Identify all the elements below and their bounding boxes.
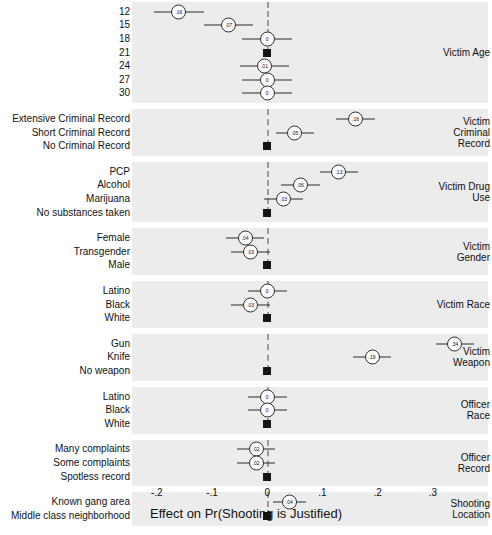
category-label: Gun [111,339,130,349]
estimate-value-bubble: .13 [331,164,346,179]
confidence-interval-right [275,410,287,411]
confidence-interval-left [273,502,282,503]
category-label: Many complaints [55,444,130,454]
reference-category-marker [263,314,271,322]
category-label: 18 [119,34,130,44]
estimate-value-bubble: .05 [287,125,302,140]
estimate-value-bubble: 0 [260,403,275,418]
category-label: Some complaints [53,458,130,468]
confidence-interval-right [462,343,474,344]
confidence-interval-left [276,132,288,133]
category-label: White [104,313,130,323]
reference-category-marker [263,49,271,57]
coefficient-plot: Victim Age12.1615.071802124.01270300Vict… [0,0,492,535]
estimate-marker: 0 [248,285,287,298]
estimate-marker: 0 [242,73,292,86]
group-label: OfficerRace [400,399,490,421]
estimate-value-bubble: 0 [260,32,275,47]
confidence-interval-right [275,79,292,80]
estimate-marker: .19 [353,351,392,364]
confidence-interval-left [320,171,332,172]
estimate-value-bubble: .34 [447,336,462,351]
category-label: Alcohol [97,180,130,190]
group-label: Victim DrugUse [400,181,490,203]
reference-category-marker [263,142,271,150]
category-label: White [104,419,130,429]
category-label: Knife [107,352,130,362]
estimate-marker: .02 [237,443,276,456]
reference-category-marker [263,367,271,375]
estimate-marker: .01 [240,60,290,73]
group-label: Victim Age [400,47,490,58]
group-label-line: Record [400,138,490,149]
category-label: 15 [119,20,130,30]
category-label: 21 [119,48,130,58]
x-axis-tick-label: .1 [318,487,326,498]
confidence-interval-left [248,396,260,397]
group-label-line: Gender [400,252,490,263]
x-axis-tick-label: -.2 [151,487,163,498]
zero-reference-line [267,109,269,146]
confidence-interval-left [237,463,249,464]
estimate-marker: 0 [248,390,287,403]
confidence-interval-left [237,449,249,450]
estimate-marker: .03 [231,298,270,311]
group-label-line: Race [400,410,490,421]
group-label: Victim Race [400,299,490,310]
estimate-value-bubble: .03 [276,192,291,207]
category-label: Black [106,405,130,415]
reference-category-marker [263,420,271,428]
confidence-interval-left [436,343,448,344]
group-label-line: Victim [400,241,490,252]
category-label: PCP [109,167,130,177]
estimate-value-bubble: .06 [293,178,308,193]
zero-reference-line [267,334,269,371]
group-label: OfficerRecord [400,452,490,474]
confidence-interval-right [272,66,289,67]
estimate-marker: .03 [231,245,270,258]
estimate-marker: .16 [336,113,375,126]
category-label: Marijuana [86,194,130,204]
estimate-value-bubble: .16 [171,4,186,19]
confidence-interval-right [264,449,276,450]
confidence-interval-right [186,11,203,12]
group-label-line: Victim Drug [400,181,490,192]
confidence-interval-left [240,66,257,67]
category-label: Spotless record [61,472,130,482]
category-label: Black [106,300,130,310]
category-label: No substances taken [37,208,130,218]
estimate-marker: .13 [320,165,359,178]
confidence-interval-right [264,463,276,464]
confidence-interval-right [363,119,375,120]
x-axis: -.2-.10.1.2.3 [132,487,488,501]
estimate-marker: .03 [264,193,303,206]
group-label-line: Victim [400,116,490,127]
category-label: No Criminal Record [43,141,130,151]
group-label-line: Officer [400,399,490,410]
estimate-marker: 0 [242,33,292,46]
estimate-marker: 0 [248,404,287,417]
estimate-marker: .16 [154,5,204,18]
confidence-interval-left [248,291,260,292]
reference-category-marker [263,261,271,269]
group-label-line: Record [400,463,490,474]
confidence-interval-right [346,171,358,172]
confidence-interval-right [297,502,306,503]
estimate-value-bubble: .02 [249,456,264,471]
confidence-interval-right [258,251,270,252]
estimate-marker: .06 [281,179,320,192]
category-label: Male [108,260,130,270]
category-label: Short Criminal Record [32,128,130,138]
confidence-interval-left [242,93,259,94]
estimate-value-bubble: .03 [243,244,258,259]
estimate-value-bubble: .19 [365,350,380,365]
category-label: 27 [119,75,130,85]
group-label-line: Officer [400,452,490,463]
reference-category-marker [263,209,271,217]
category-label: 12 [119,7,130,17]
x-axis-tick-label: 0 [264,487,270,498]
estimate-marker: .34 [436,337,475,350]
estimate-value-bubble: .07 [221,18,236,33]
confidence-interval-right [275,291,287,292]
group-label-line: Criminal [400,127,490,138]
